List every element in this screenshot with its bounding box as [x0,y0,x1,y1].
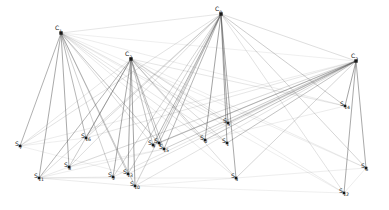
graph-edge [69,149,164,167]
graph-edge [69,14,221,167]
node-subscript-s3: 3 [158,142,161,147]
node-subscript-s14: 14 [344,105,350,110]
graph-edge [39,33,61,178]
node-subscript-s8: 8 [68,166,71,171]
graph-edge [344,61,356,193]
node-subscript-s11: 11 [38,177,44,182]
graph-edge [131,59,228,123]
node-subscript-s16: 16 [85,137,91,142]
node-subscript-c2: 2 [355,57,358,62]
graph-edge [86,14,221,138]
network-graph-canvas: C1C3C0C2S7S16S8S11S2S13S10S9S15S5S0S1S4S… [0,0,389,210]
graph-edge [135,186,344,193]
node-subscript-s1: 1 [226,142,229,147]
node-subscript-s5: 5 [227,122,230,127]
graph-edge [128,14,221,174]
node-subscript-s4: 4 [235,177,238,182]
graph-edge [131,59,159,143]
graph-edge [221,14,228,123]
graph-edge [39,14,221,178]
network-graph-figure: C1C3C0C2S7S16S8S11S2S13S10S9S15S5S0S1S4S… [0,0,389,210]
graph-edge [61,14,221,33]
node-subscript-s13: 13 [127,173,133,178]
edge-layer [20,14,366,193]
node-subscript-c0: 0 [219,10,222,15]
graph-edge [39,178,135,186]
graph-edge [221,14,344,193]
graph-edge [153,14,221,145]
graph-edge [131,59,236,178]
node-subscript-c3: 3 [129,55,132,60]
node-subscript-s2: 2 [112,176,115,181]
node-subscript-c1: 1 [59,29,62,34]
graph-edge [69,59,131,167]
graph-edge [131,59,164,149]
node-subscript-s15: 15 [163,148,169,153]
graph-edge [236,168,366,178]
node-subscript-s12: 12 [343,192,349,197]
graph-edge [221,14,356,61]
node-subscript-s9: 9 [152,144,155,149]
node-subscript-s7: 7 [19,145,22,150]
graph-edge [131,59,153,145]
node-subscript-s0: 0 [204,139,207,144]
graph-edge [236,61,356,178]
graph-edge [345,61,356,106]
graph-edge [164,61,356,149]
node-subscript-s10: 10 [134,185,140,190]
graph-edge [20,59,131,146]
node-subscript-s6: 6 [365,167,368,172]
graph-edge [135,178,236,186]
graph-edge [20,33,61,146]
graph-edge [344,168,366,193]
graph-edge [227,61,356,143]
graph-edge [356,61,366,168]
graph-edge [61,33,69,167]
